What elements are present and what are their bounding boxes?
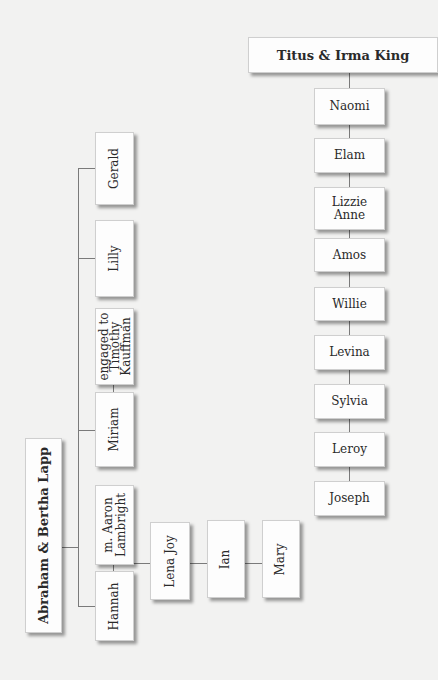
child-label: Gerald: [108, 148, 121, 189]
child-levina: Levina: [314, 335, 385, 370]
child-label: Sylvia: [331, 395, 368, 408]
child-label: Miriam: [108, 407, 121, 451]
stub-miriam: [78, 430, 95, 431]
parents-label: Titus & Irma King: [277, 49, 410, 62]
child-gerald: Gerald: [95, 132, 134, 205]
grandchild-label: Ian: [220, 549, 233, 569]
child-label: Naomi: [329, 100, 369, 113]
lapp-trunk-line: [78, 168, 79, 606]
king-spine-line: [349, 73, 350, 485]
stub-hannah: [78, 606, 95, 607]
child-label: Elam: [334, 149, 365, 162]
child-hannah: Hannah: [95, 571, 134, 641]
abraham-bertha-lapp-box: Abraham & Bertha Lapp: [25, 438, 62, 633]
grandchild-lena-joy: Lena Joy: [150, 522, 190, 600]
grandchild-ian: Ian: [207, 520, 245, 598]
child-elam: Elam: [314, 138, 385, 173]
engaged-note: engaged to Timothy Kauffman: [98, 313, 131, 381]
child-label: Levina: [329, 346, 370, 359]
stub-lilly: [78, 258, 95, 259]
grandchild-label: Lena Joy: [164, 535, 177, 588]
lapp-parent-stub-line: [62, 547, 79, 548]
child-willie: Willie: [314, 287, 385, 321]
note-line: Lambright: [115, 493, 128, 557]
grandchild-mary: Mary: [262, 520, 300, 598]
child-naomi: Naomi: [314, 88, 385, 125]
miriam-engaged-note: engaged to Timothy Kauffman: [95, 308, 134, 385]
child-label: Lilly: [108, 245, 121, 271]
child-miriam: Miriam: [95, 392, 134, 467]
child-label: Leroy: [332, 443, 367, 456]
child-joseph: Joseph: [314, 481, 385, 516]
parents-label: Abraham & Bertha Lapp: [37, 447, 50, 624]
note-line: Kauffman: [120, 313, 131, 381]
child-label: Hannah: [108, 582, 121, 630]
note-line: m. Aaron: [102, 493, 115, 557]
married-note: m. Aaron Lambright: [102, 493, 128, 557]
child-lilly: Lilly: [95, 220, 134, 297]
child-sylvia: Sylvia: [314, 384, 385, 419]
child-amos: Amos: [314, 238, 385, 272]
child-label: Lizzie Anne: [330, 196, 370, 222]
child-label: Amos: [333, 249, 366, 262]
grandchild-label: Mary: [275, 543, 288, 575]
child-lizzie-anne: Lizzie Anne: [314, 187, 385, 230]
child-leroy: Leroy: [314, 432, 385, 467]
hannah-married-note: m. Aaron Lambright: [95, 485, 134, 565]
child-label: Joseph: [329, 492, 370, 505]
stub-gerald: [78, 168, 95, 169]
titus-irma-king-box: Titus & Irma King: [248, 37, 438, 73]
child-label: Willie: [332, 298, 367, 311]
